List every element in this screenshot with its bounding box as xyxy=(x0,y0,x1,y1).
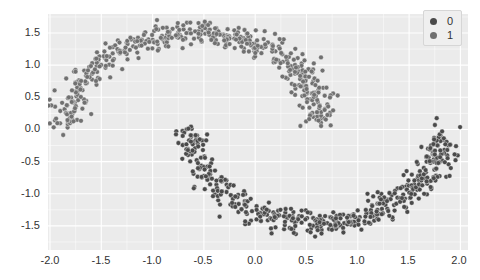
legend-item-1: 1 xyxy=(430,28,453,42)
y-tick: 0.5 xyxy=(0,90,40,102)
marker-icon xyxy=(430,18,437,25)
x-tick: -2.0 xyxy=(30,254,70,266)
x-tick: 2.0 xyxy=(439,254,479,266)
legend-label: 1 xyxy=(447,29,453,41)
x-tick: 1.0 xyxy=(337,254,377,266)
plot-area xyxy=(48,14,468,250)
x-tick: 0.0 xyxy=(235,254,275,266)
scatter-canvas xyxy=(48,14,468,250)
legend-label: 0 xyxy=(447,15,453,27)
y-tick: 1.5 xyxy=(0,26,40,38)
marker-icon xyxy=(430,32,437,39)
y-tick: -1.0 xyxy=(0,187,40,199)
x-tick: -0.5 xyxy=(183,254,223,266)
x-tick: 0.5 xyxy=(286,254,326,266)
y-tick: -1.5 xyxy=(0,219,40,231)
y-tick: 0.0 xyxy=(0,122,40,134)
legend: 0 1 xyxy=(423,10,462,46)
y-tick: -0.5 xyxy=(0,155,40,167)
x-tick: -1.5 xyxy=(81,254,121,266)
legend-item-0: 0 xyxy=(430,14,453,28)
x-tick: -1.0 xyxy=(132,254,172,266)
x-tick: 1.5 xyxy=(388,254,428,266)
y-tick: 1.0 xyxy=(0,58,40,70)
